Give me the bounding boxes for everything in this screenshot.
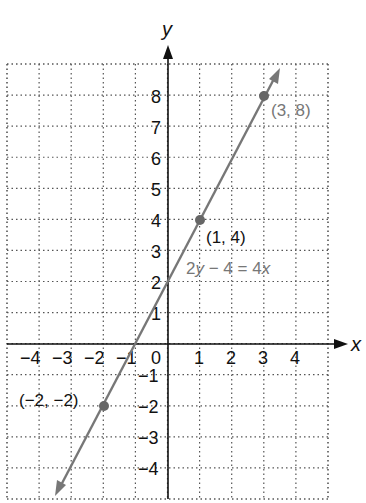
- y-tick: −3: [138, 428, 159, 448]
- x-tick: 2: [226, 348, 236, 368]
- y-axis-label: y: [160, 18, 173, 40]
- point-label-1-4: (1, 4): [206, 228, 246, 247]
- y-tick: 8: [151, 87, 161, 107]
- data-point: [195, 215, 205, 225]
- y-tick: −1: [138, 366, 159, 386]
- x-tick: −1: [116, 348, 137, 368]
- x-tick: 0: [151, 348, 161, 368]
- y-tick: 7: [151, 118, 161, 138]
- y-tick: 6: [151, 149, 161, 169]
- x-tick-labels: −4 −3 −2 −1 0 1 2 3 4: [20, 348, 300, 368]
- equation-label: 2y − 4 = 4x: [186, 259, 271, 278]
- coordinate-plane-chart: x y −4 −3 −2 −1 0 1 2 3 4 8 7 6 5 4 3 2 …: [0, 0, 366, 503]
- x-tick: 3: [258, 348, 268, 368]
- x-tick: −4: [20, 348, 41, 368]
- y-tick: 1: [151, 304, 161, 324]
- y-axis-arrow-icon: [163, 45, 173, 59]
- line-arrow-up-icon: [269, 68, 280, 84]
- x-tick: −2: [84, 348, 105, 368]
- data-point: [259, 91, 269, 101]
- data-point: [99, 401, 109, 411]
- x-axis-label: x: [350, 333, 362, 355]
- line-arrow-down-icon: [55, 480, 66, 496]
- axes: x y: [7, 18, 362, 499]
- y-tick: 3: [151, 242, 161, 262]
- x-tick: −3: [52, 348, 73, 368]
- y-tick: 5: [151, 180, 161, 200]
- point-label-3-8: (3, 8): [271, 101, 311, 120]
- y-tick: −4: [138, 459, 159, 479]
- y-tick: 4: [151, 211, 161, 231]
- point-label-neg2-neg2: (−2, −2): [19, 391, 79, 410]
- x-axis-arrow-icon: [334, 339, 348, 349]
- x-tick: 4: [290, 348, 300, 368]
- y-tick-labels: 8 7 6 5 4 3 2 1 −1 −2 −3 −4: [138, 87, 161, 479]
- y-tick: 2: [151, 273, 161, 293]
- x-tick: 1: [194, 348, 204, 368]
- y-tick: −2: [138, 397, 159, 417]
